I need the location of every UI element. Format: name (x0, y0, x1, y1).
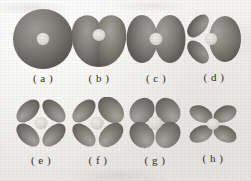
panel-f: ( f ) (70, 97, 126, 174)
panel-g-label: ( g ) (126, 154, 184, 166)
panel-b: ( b ) (70, 9, 128, 88)
orbital-shape-heart-two-lobe (70, 9, 128, 69)
panel-h-label: ( h ) (188, 152, 238, 164)
orbital-shape-four-lobe-flattened (188, 102, 238, 146)
panel-a-label: ( a ) (12, 72, 74, 84)
panel-d: ( d ) (186, 14, 242, 88)
panel-d-label: ( d ) (186, 71, 242, 83)
orbital-shape-four-lobe-diagonal-wide (70, 97, 126, 149)
panel-e: ( e ) (14, 98, 68, 174)
orbital-shape-three-lobe-asymmetric (186, 14, 242, 64)
panel-h: ( h ) (188, 102, 238, 174)
orbital-shape-four-lobe-diagonal (14, 98, 68, 148)
panel-b-label: ( b ) (70, 72, 128, 84)
orbital-figure-plate: ( a ) ( b ) (0, 0, 251, 181)
orbital-shape-four-lobe-rounded (126, 96, 184, 150)
panel-c: ( c ) (126, 13, 186, 88)
panel-f-label: ( f ) (70, 154, 126, 166)
orbital-shape-sphere (12, 8, 74, 70)
panel-a: ( a ) (12, 8, 74, 88)
panel-c-label: ( c ) (126, 72, 186, 84)
orbital-shape-horizontal-dumbbell (126, 13, 186, 65)
panel-g: ( g ) (126, 96, 184, 174)
panel-e-label: ( e ) (14, 154, 68, 166)
